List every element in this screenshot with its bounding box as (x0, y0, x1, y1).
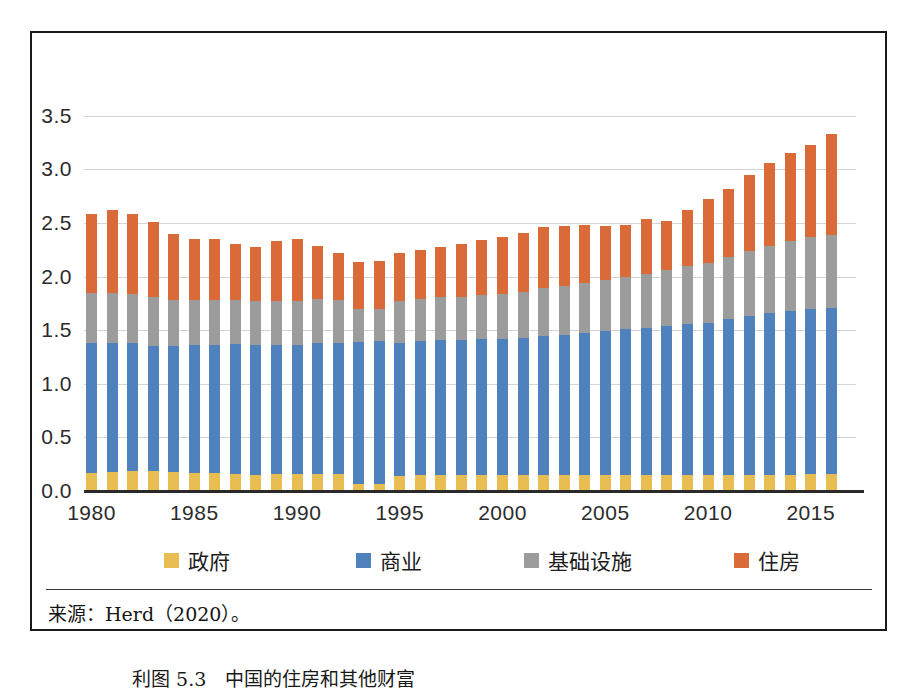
bar-2014[interactable] (785, 153, 796, 491)
y-tick-label: 3.5 (41, 104, 72, 128)
legend-item-infrastructure[interactable]: 基础设施 (524, 545, 632, 575)
bar-2015[interactable] (805, 145, 816, 491)
bar-2000[interactable] (497, 237, 508, 491)
bar-segment-government (620, 475, 631, 491)
bar-segment-infrastructure (826, 235, 837, 308)
bar-2010[interactable] (703, 199, 714, 491)
legend-label: 政府 (188, 545, 230, 575)
y-tick-label: 2.5 (41, 211, 72, 235)
bar-1998[interactable] (456, 244, 467, 491)
bar-segment-infrastructure (620, 277, 631, 330)
bar-1984[interactable] (168, 234, 179, 491)
bar-2011[interactable] (723, 189, 734, 491)
bar-1992[interactable] (333, 253, 344, 491)
y-tick-label: 2.0 (41, 265, 72, 289)
bar-1993[interactable] (353, 262, 364, 491)
bar-segment-infrastructure (682, 266, 693, 324)
bar-1982[interactable] (127, 214, 138, 491)
bar-segment-commercial (703, 323, 714, 475)
bar-segment-infrastructure (538, 288, 549, 335)
y-tick-label: 0.5 (41, 425, 72, 449)
bar-segment-government (209, 473, 220, 491)
bar-segment-government (250, 475, 261, 491)
bar-segment-housing (785, 153, 796, 241)
bar-1995[interactable] (394, 253, 405, 491)
bar-1988[interactable] (250, 247, 261, 491)
plot-area (84, 89, 856, 491)
bar-2005[interactable] (600, 226, 611, 491)
x-tick-label: 1995 (375, 501, 424, 525)
bar-segment-housing (333, 253, 344, 300)
bar-segment-infrastructure (723, 257, 734, 319)
bar-segment-commercial (230, 344, 241, 474)
legend-label: 基础设施 (548, 545, 632, 575)
bar-segment-housing (497, 237, 508, 294)
bar-2003[interactable] (559, 226, 570, 491)
bar-segment-commercial (292, 345, 303, 474)
bar-segment-commercial (600, 331, 611, 475)
bar-segment-commercial (333, 343, 344, 474)
bar-segment-government (805, 474, 816, 491)
bar-1981[interactable] (107, 210, 118, 491)
bar-segment-commercial (250, 345, 261, 475)
bar-segment-commercial (107, 343, 118, 472)
bar-1980[interactable] (86, 214, 97, 491)
bar-segment-government (579, 475, 590, 491)
bar-1997[interactable] (435, 247, 446, 491)
bar-2007[interactable] (641, 219, 652, 491)
bar-segment-government (86, 473, 97, 491)
bar-1989[interactable] (271, 241, 282, 491)
bar-segment-housing (394, 253, 405, 301)
bar-segment-infrastructure (189, 300, 200, 345)
bar-2006[interactable] (620, 225, 631, 491)
bar-segment-infrastructure (230, 300, 241, 344)
bar-1986[interactable] (209, 239, 220, 491)
bar-2009[interactable] (682, 210, 693, 491)
bar-segment-infrastructure (456, 297, 467, 340)
source-note: 来源：Herd（2020）。 (48, 599, 250, 626)
bar-segment-infrastructure (148, 297, 159, 346)
bar-segment-housing (374, 261, 385, 309)
bar-2004[interactable] (579, 225, 590, 491)
bar-segment-government (168, 472, 179, 491)
legend-item-commercial[interactable]: 商业 (356, 545, 422, 575)
bar-1996[interactable] (415, 250, 426, 491)
bar-1990[interactable] (292, 239, 303, 491)
legend-item-government[interactable]: 政府 (164, 545, 230, 575)
bar-segment-housing (209, 239, 220, 300)
bar-segment-commercial (826, 308, 837, 474)
x-tick-label: 2000 (478, 501, 527, 525)
bar-segment-commercial (785, 311, 796, 475)
bar-segment-government (148, 471, 159, 491)
bar-2013[interactable] (764, 163, 775, 491)
bar-2016[interactable] (826, 134, 837, 491)
bar-1994[interactable] (374, 261, 385, 491)
bar-1987[interactable] (230, 244, 241, 491)
bar-segment-commercial (559, 335, 570, 475)
bar-segment-government (333, 474, 344, 491)
figure-caption: 利图 5.3 中国的住房和其他财富 (132, 664, 415, 691)
bar-2008[interactable] (661, 221, 672, 491)
bar-segment-infrastructure (168, 300, 179, 346)
bar-segment-housing (271, 241, 282, 301)
bar-segment-government (107, 472, 118, 491)
bar-1983[interactable] (148, 222, 159, 491)
bar-segment-government (600, 475, 611, 491)
bar-1999[interactable] (476, 240, 487, 491)
bar-1991[interactable] (312, 246, 323, 491)
bar-segment-commercial (435, 340, 446, 475)
legend-item-housing[interactable]: 住房 (734, 545, 800, 575)
bar-segment-housing (620, 225, 631, 276)
bar-segment-government (826, 474, 837, 491)
bar-segment-commercial (374, 341, 385, 484)
bar-segment-housing (189, 239, 200, 300)
bar-2012[interactable] (744, 175, 755, 491)
bar-2002[interactable] (538, 227, 549, 491)
bar-segment-commercial (723, 319, 734, 474)
bar-2001[interactable] (518, 233, 529, 491)
bar-1985[interactable] (189, 239, 200, 491)
bar-segment-government (415, 475, 426, 491)
bar-segment-commercial (497, 339, 508, 475)
bar-segment-commercial (271, 345, 282, 474)
bar-segment-government (682, 475, 693, 491)
